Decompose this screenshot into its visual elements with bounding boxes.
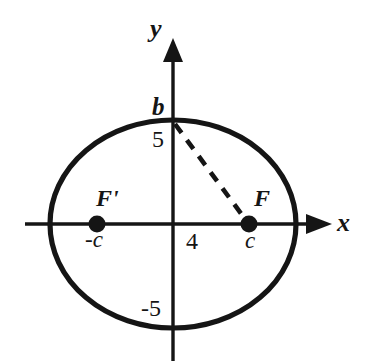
x-axis-arrowhead (306, 214, 332, 234)
left-focus-label: F' (96, 186, 119, 210)
y-intercept-label-negative-5: -5 (141, 296, 161, 320)
ellipse-figure: y x b 5 -5 4 F' -c F c (0, 0, 371, 361)
ellipse-diagram-canvas (0, 0, 371, 361)
right-focus-label: F (254, 186, 270, 210)
distance-label-4: 4 (186, 229, 198, 253)
semi-minor-axis-label-b: b (152, 94, 165, 119)
dashed-b-to-focus-segment (175, 124, 248, 223)
y-intercept-label-5: 5 (152, 127, 164, 151)
left-focus-coordinate-label: -c (85, 228, 103, 251)
y-axis-arrowhead (163, 38, 183, 62)
x-axis-label: x (337, 210, 350, 236)
y-axis-label: y (150, 16, 162, 42)
right-focus-coordinate-label: c (245, 229, 255, 252)
